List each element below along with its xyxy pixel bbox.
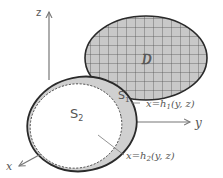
y-axis-label: y [194,116,202,130]
diagram-svg: z D y S1 S2 x x=h1(y, z) x [0,0,223,178]
z-axis-label: z [36,7,41,18]
region-d-label: D [141,53,152,67]
h2-annotation: x=h2(y, z) [126,150,175,163]
h1-annotation: x=h1(y, z) [146,98,195,111]
x-axis [19,154,41,166]
diagram-canvas: z D y S1 S2 x x=h1(y, z) x [0,0,223,178]
x-axis-label: x [6,160,13,173]
